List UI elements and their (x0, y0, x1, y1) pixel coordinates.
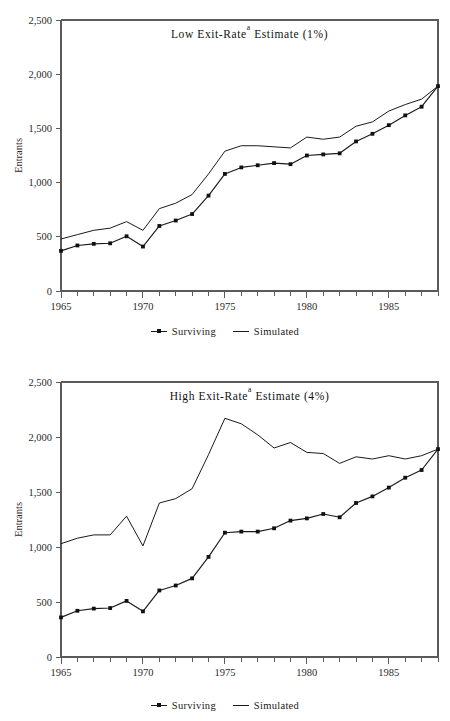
data-point-marker (371, 495, 375, 499)
data-point-marker (157, 589, 161, 593)
x-axis-tick-label: 1965 (51, 667, 72, 678)
data-point-marker (321, 153, 325, 157)
data-point-marker (108, 606, 112, 610)
y-axis-tick-label: 1,500 (28, 123, 52, 134)
axis-frame-top-right (61, 382, 438, 657)
data-point-marker (174, 219, 178, 223)
data-point-marker (59, 249, 63, 253)
chart-panel-high-exit-rate: 05001,0001,5002,0002,5001965197019751980… (0, 360, 450, 721)
data-point-marker (75, 244, 79, 248)
x-axis-tick-label: 1975 (214, 667, 235, 678)
x-axis-tick-label: 1985 (378, 667, 399, 678)
legend-item-surviving: Surviving (151, 325, 216, 337)
x-axis-tick-label: 1970 (132, 301, 153, 312)
data-point-marker (256, 163, 260, 167)
data-point-marker (305, 517, 309, 521)
data-point-marker (125, 234, 129, 238)
data-point-marker (75, 609, 79, 613)
x-axis-tick-label: 1985 (378, 301, 399, 312)
data-point-marker (207, 555, 211, 559)
data-point-marker (387, 123, 391, 127)
data-point-marker (239, 530, 243, 534)
y-axis-tick-label: 500 (36, 231, 52, 242)
data-point-marker (420, 468, 424, 472)
y-axis-tick-label: 0 (47, 652, 52, 663)
data-point-marker (338, 515, 342, 519)
y-axis-tick-label: 1,000 (28, 177, 52, 188)
high-exit-rate-chart: 05001,0001,5002,0002,5001965197019751980… (0, 360, 450, 695)
data-point-marker (92, 607, 96, 611)
chart-title: Low Exit-Ratea Estimate (1%) (171, 23, 328, 42)
series-line-surviving (61, 449, 438, 617)
axis-frame-left-bottom (61, 382, 438, 657)
y-axis-tick-label: 1,000 (28, 542, 52, 553)
data-point-marker (305, 154, 309, 158)
data-point-marker (108, 241, 112, 245)
data-point-marker (59, 616, 63, 620)
data-point-marker (354, 140, 358, 144)
data-point-marker (338, 151, 342, 155)
data-point-marker (190, 576, 194, 580)
y-axis-tick-label: 2,000 (28, 69, 52, 80)
data-point-marker (272, 526, 276, 530)
y-axis-tick-label: 500 (36, 597, 52, 608)
series-line-simulated (61, 86, 438, 239)
data-point-marker (92, 242, 96, 246)
x-axis-tick-label: 1975 (214, 301, 235, 312)
legend-low-exit-rate: Surviving Simulated (0, 325, 450, 337)
x-axis-tick-label: 1965 (51, 301, 72, 312)
data-point-marker (141, 245, 145, 249)
x-axis-tick-label: 1980 (296, 667, 317, 678)
x-axis-tick-label: 1980 (296, 301, 317, 312)
chart-title: High Exit-Ratea Estimate (4%) (170, 385, 330, 404)
data-point-marker (354, 501, 358, 505)
legend-label-simulated: Simulated (254, 326, 299, 337)
data-point-marker (207, 194, 211, 198)
data-point-marker (174, 584, 178, 588)
data-point-marker (371, 132, 375, 136)
data-point-marker (321, 512, 325, 516)
y-axis-tick-label: 0 (47, 286, 52, 297)
data-point-marker (403, 476, 407, 480)
data-point-marker (125, 599, 129, 603)
series-line-surviving (61, 86, 438, 251)
data-point-marker (256, 530, 260, 534)
legend-item-simulated: Simulated (233, 325, 299, 337)
legend-high-exit-rate: Surviving Simulated (0, 699, 450, 711)
y-axis-tick-label: 1,500 (28, 487, 52, 498)
data-point-marker (387, 486, 391, 490)
data-point-marker (289, 519, 293, 523)
legend-line-icon (233, 327, 249, 336)
legend-marker-square-icon (151, 701, 167, 710)
legend-marker-square-icon (151, 327, 167, 336)
axis-frame-left-bottom (61, 20, 438, 291)
chart-panel-low-exit-rate: 05001,0001,5002,0002,5001965197019751980… (0, 0, 450, 350)
legend-item-simulated: Simulated (233, 699, 299, 711)
data-point-marker (420, 105, 424, 109)
y-axis-tick-label: 2,000 (28, 432, 52, 443)
data-point-marker (141, 609, 145, 613)
data-point-marker (223, 172, 227, 176)
data-point-marker (190, 212, 194, 216)
data-point-marker (223, 531, 227, 535)
series-line-simulated (61, 418, 438, 546)
y-axis-tick-label: 2,500 (28, 15, 52, 26)
data-point-marker (289, 162, 293, 166)
y-axis-tick-label: 2,500 (28, 377, 52, 388)
legend-label-surviving: Surviving (172, 326, 216, 337)
data-point-marker (157, 224, 161, 228)
axis-frame-top-right (61, 20, 438, 291)
legend-label-simulated: Simulated (254, 700, 299, 711)
legend-line-icon (233, 701, 249, 710)
legend-label-surviving: Surviving (172, 700, 216, 711)
data-point-marker (239, 166, 243, 170)
data-point-marker (403, 113, 407, 117)
low-exit-rate-chart: 05001,0001,5002,0002,5001965197019751980… (0, 0, 450, 320)
y-axis-title: Entrants (13, 502, 24, 537)
x-axis-tick-label: 1970 (132, 667, 153, 678)
legend-item-surviving: Surviving (151, 699, 216, 711)
data-point-marker (272, 161, 276, 165)
y-axis-title: Entrants (13, 138, 24, 173)
